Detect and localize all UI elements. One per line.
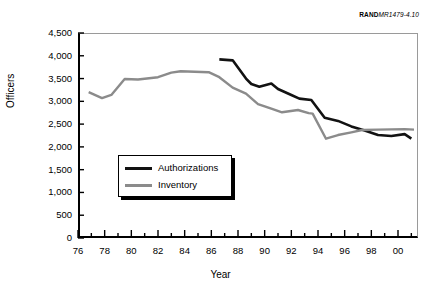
y-axis-tick-marks: [78, 33, 84, 238]
chart-legend: Authorizations Inventory: [118, 155, 232, 197]
x-axis-title: Year: [0, 270, 441, 280]
x-axis-tick-label: 80: [118, 246, 144, 256]
x-axis-tick-label: 90: [252, 246, 278, 256]
x-axis-tick-label: 82: [145, 246, 171, 256]
x-axis-tick-label: 96: [332, 246, 358, 256]
x-axis-tick-label: 98: [358, 246, 384, 256]
legend-item-inventory: Inventory: [125, 178, 197, 192]
x-axis-tick-label: 92: [278, 246, 304, 256]
x-axis-tick-label: 00: [385, 246, 411, 256]
y-axis-tick-label: 4,500: [28, 28, 72, 38]
chart-figure: RANDMR1479-4.10 05001,0001,5002,0002,500…: [0, 0, 441, 295]
legend-swatch-authorizations: [125, 167, 152, 170]
y-axis-tick-label: 2,500: [28, 119, 72, 129]
series-line-authorizations: [219, 59, 411, 138]
series-line-inventory: [89, 71, 414, 138]
legend-item-authorizations: Authorizations: [125, 161, 218, 175]
x-axis-tick-label: 78: [92, 246, 118, 256]
y-axis-tick-label: 3,500: [28, 74, 72, 84]
x-axis-tick-label: 88: [225, 246, 251, 256]
y-axis-tick-label: 2,000: [28, 142, 72, 152]
x-axis-tick-label: 84: [172, 246, 198, 256]
legend-label-inventory: Inventory: [158, 180, 197, 190]
x-axis-tick-label: 94: [305, 246, 331, 256]
y-axis-title: Officers: [6, 74, 16, 108]
y-axis-tick-label: 4,000: [28, 51, 72, 61]
legend-label-authorizations: Authorizations: [158, 163, 218, 173]
y-axis-tick-label: 1,500: [28, 165, 72, 175]
x-axis-tick-label: 86: [198, 246, 224, 256]
y-axis-tick-label: 1,000: [28, 187, 72, 197]
x-axis-tick-marks: [78, 230, 411, 238]
y-axis-tick-label: 0: [28, 233, 72, 243]
y-axis-tick-label: 3,000: [28, 96, 72, 106]
legend-swatch-inventory: [125, 184, 152, 187]
data-series-layer: [89, 59, 414, 138]
y-axis-tick-label: 500: [28, 210, 72, 220]
x-axis-tick-label: 76: [65, 246, 91, 256]
